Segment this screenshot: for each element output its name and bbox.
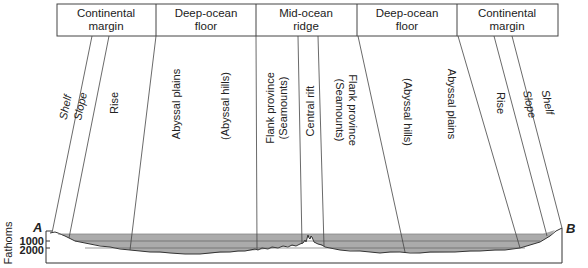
boundary-shelf-left	[52, 36, 92, 233]
boundary-rise-right	[458, 36, 520, 248]
header-deep-ocean-floor-right-line1: Deep-ocean	[376, 7, 439, 19]
header-continental-margin-right-line1: Continental	[478, 7, 536, 19]
header-deep-ocean-floor-left-line1: Deep-ocean	[175, 7, 238, 19]
fathoms-axis-label: Fathoms	[2, 221, 14, 264]
seafloor-profile	[46, 228, 562, 263]
point-a-label: A	[32, 220, 42, 235]
label-rise-right: Rise	[495, 92, 507, 114]
boundary-flank-right	[358, 36, 405, 252]
label-flank-province-left-line1: Flank province	[264, 72, 276, 144]
label-central-rift: Central rift	[304, 86, 316, 137]
label-flank-province-right-line1: Flank province	[347, 74, 359, 146]
label-shelf-right: Shelf	[539, 89, 556, 117]
header-deep-ocean-floor-left-line2: floor	[195, 20, 218, 32]
boundary-rift-right	[318, 36, 324, 246]
label-rise-left: Rise	[108, 92, 120, 114]
header-mid-ocean-ridge-line2: ridge	[293, 20, 319, 32]
header-continental-margin-left-line2: margin	[88, 20, 123, 32]
zone-labels-left: Shelf Slope Rise Abyssal plains (Abyssal…	[57, 68, 289, 143]
label-abyssal-plains-right: Abyssal plains	[446, 69, 458, 140]
boundary-rift-left	[298, 36, 302, 244]
label-abyssal-hills-right: (Abyssal hills)	[402, 78, 414, 146]
header-continental-margin-left-line1: Continental	[77, 7, 135, 19]
boundary-flank-left	[256, 36, 257, 250]
depth-tick-label-2000: 2000	[20, 244, 44, 256]
point-b-label: B	[566, 221, 575, 236]
header-boxes: Continental margin Deep-ocean floor Mid-…	[57, 4, 558, 36]
boundary-slope-left	[69, 36, 109, 238]
label-abyssal-hills-left: (Abyssal hills)	[219, 72, 231, 140]
header-mid-ocean-ridge-line1: Mid-ocean	[279, 7, 333, 19]
label-abyssal-plains-left: Abyssal plains	[170, 68, 182, 139]
boundary-slope-right	[494, 36, 547, 236]
label-slope-right: Slope	[521, 89, 539, 119]
header-deep-ocean-floor-right-line2: floor	[396, 20, 419, 32]
boundary-rise-left	[130, 36, 156, 250]
zone-labels-center: Central rift	[304, 86, 316, 137]
ocean-floor-profile-diagram: Continental margin Deep-ocean floor Mid-…	[0, 0, 588, 268]
header-continental-margin-right-line2: margin	[489, 20, 524, 32]
label-flank-province-left-line2: (Seamounts)	[277, 77, 289, 140]
label-slope-left: Slope	[71, 91, 89, 121]
zone-boundaries	[52, 36, 562, 252]
label-flank-province-right-line2: (Seamounts)	[334, 79, 346, 142]
